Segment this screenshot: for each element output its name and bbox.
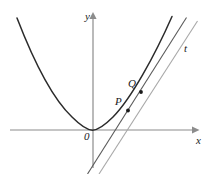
tangent-line-t: [99, 21, 198, 174]
point-marker-q: [139, 90, 143, 94]
point-label-q: Q: [128, 78, 136, 89]
y-axis-arrow-icon: [89, 12, 96, 19]
x-axis-label: x: [196, 135, 201, 146]
tangent-line-label: t: [184, 43, 187, 54]
origin-label: 0: [84, 131, 90, 142]
parabola-secant-tangent-figure: y x t P Q 0: [0, 0, 210, 174]
secant-line-pq: [88, 18, 187, 175]
y-axis: [89, 12, 96, 168]
parabola-curve: [17, 17, 172, 131]
x-axis: [10, 126, 200, 133]
point-label-p: P: [115, 96, 122, 107]
x-axis-arrow-icon: [192, 126, 200, 133]
plot-canvas: [0, 0, 210, 174]
point-marker-p: [126, 109, 130, 113]
y-axis-label: y: [85, 11, 90, 22]
